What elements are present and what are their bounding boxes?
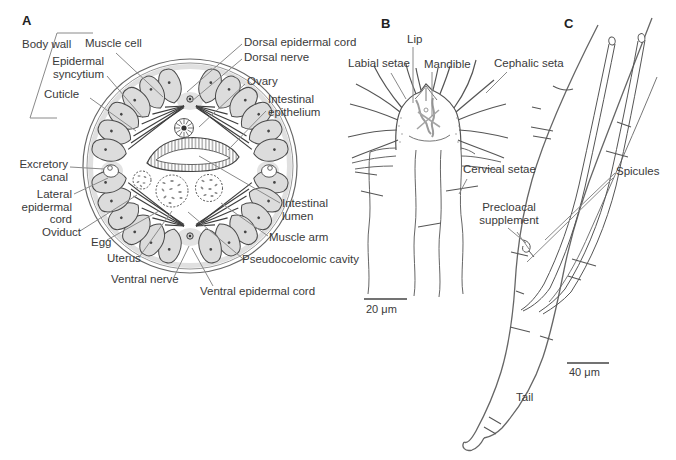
- label-lip: Lip: [407, 33, 422, 46]
- tail-outline: [463, 18, 657, 450]
- label-labial-setae: Labial setae: [348, 57, 410, 70]
- body-outline-b: [368, 148, 475, 297]
- label-egg: Egg: [91, 236, 111, 249]
- label-intestinal-lumen: Intestinal lumen: [282, 197, 340, 222]
- ventral-cord: [187, 233, 193, 239]
- lateral-cord-left: [104, 165, 119, 177]
- scale-bar-b-text: 20 μm: [366, 303, 397, 315]
- label-pseudocoelomic-cavity: Pseudocoelomic cavity: [242, 253, 359, 266]
- scale-bar-c-text: 40 μm: [569, 366, 600, 378]
- label-excretory-canal: Excretory canal: [14, 158, 68, 183]
- label-mandible: Mandible: [424, 58, 471, 71]
- label-uterus: Uterus: [107, 252, 141, 265]
- label-lateral-epidermal-cord: Lateral epidermal cord: [10, 188, 72, 226]
- panel-letter-c: C: [564, 16, 573, 31]
- label-precloacal-supplement: Precloacal supplement: [476, 201, 542, 226]
- panel-letter-a: A: [22, 13, 31, 28]
- nematode-anatomy-figure: A B C Body wall Muscle cell Epidermal sy…: [0, 0, 676, 460]
- label-cervical-setae: Cervical setae: [463, 163, 536, 176]
- panel-letter-b: B: [381, 16, 390, 31]
- egg-circle: [156, 175, 188, 207]
- body-setae-ticks-c: [484, 86, 631, 434]
- ovary: [175, 119, 194, 138]
- label-epidermal-syncytium: Epidermal syncytium: [48, 55, 104, 80]
- head-outline: [396, 84, 461, 150]
- oviduct-circle: [133, 171, 151, 189]
- label-ventral-nerve: Ventral nerve: [111, 273, 179, 286]
- cervical-setae-ticks: [355, 172, 478, 227]
- lateral-cord-right: [262, 165, 277, 177]
- uterus-circle: [196, 175, 223, 202]
- excretory-canal-left: [108, 166, 113, 171]
- label-dorsal-nerve: Dorsal nerve: [244, 51, 309, 64]
- label-tail: Tail: [516, 391, 533, 404]
- label-cephalic-seta: Cephalic seta: [494, 57, 564, 70]
- excretory-canal-right: [268, 166, 273, 171]
- label-ovary: Ovary: [247, 75, 278, 88]
- panel-c-drawing: [463, 18, 657, 450]
- label-muscle-arm: Muscle arm: [269, 231, 328, 244]
- intestine: [147, 138, 239, 172]
- label-oviduct: Oviduct: [42, 226, 81, 239]
- label-spicules: Spicules: [616, 165, 659, 178]
- label-intestinal-epithelium: Intestinal epithelium: [268, 93, 338, 118]
- label-muscle-cell: Muscle cell: [85, 37, 142, 50]
- label-dorsal-epidermal-cord: Dorsal epidermal cord: [244, 36, 357, 49]
- label-ventral-epidermal-cord: Ventral epidermal cord: [200, 285, 315, 298]
- label-body-wall: Body wall: [22, 38, 71, 51]
- label-cuticle: Cuticle: [44, 88, 79, 101]
